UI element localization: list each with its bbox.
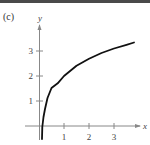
x-axis-arrow-icon: [135, 124, 141, 128]
function-curve: [42, 43, 134, 140]
chart: 1 2 3 1 2 3 x y: [0, 0, 150, 145]
x-axis-label: x: [142, 121, 147, 131]
x-tick-label: 2: [87, 132, 92, 142]
y-tick-label: 2: [29, 71, 34, 81]
y-axis-arrow-icon: [38, 24, 42, 30]
x-tick-label: 1: [62, 132, 67, 142]
y-ticks: 1 2 3: [29, 46, 44, 106]
y-tick-label: 3: [29, 46, 34, 56]
y-axis-label: y: [37, 13, 42, 23]
y-tick-label: 1: [29, 96, 34, 106]
x-tick-label: 3: [112, 132, 117, 142]
